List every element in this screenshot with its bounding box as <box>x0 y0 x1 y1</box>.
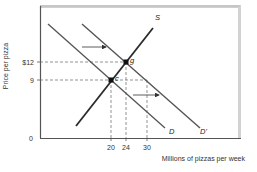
equilibrium-point-g <box>124 60 129 65</box>
demand-curve-D <box>48 24 165 128</box>
x-tick-20: 20 <box>107 144 115 151</box>
supply-demand-chart: g c S D D' $12 9 0 20 24 30 Price per pi… <box>0 0 257 172</box>
equilibrium-point-c <box>109 78 114 83</box>
point-label-c: c <box>115 74 119 83</box>
y-tick-0: 0 <box>29 135 33 142</box>
tick-marks <box>37 62 147 141</box>
point-label-g: g <box>130 56 135 65</box>
plot-frame <box>40 5 241 138</box>
x-axis-label: Millions of pizzas per week <box>162 155 246 163</box>
y-tick-12: $12 <box>22 59 34 66</box>
curve-label-D: D <box>169 127 175 136</box>
curve-label-S: S <box>155 13 160 22</box>
curve-label-D-prime: D' <box>200 127 207 136</box>
x-tick-24: 24 <box>122 144 130 151</box>
x-tick-30: 30 <box>143 144 151 151</box>
guide-lines <box>40 62 147 138</box>
y-axis-label: Price per pizza <box>2 43 10 89</box>
y-tick-9: 9 <box>30 77 34 84</box>
demand-curve-D-prime <box>82 24 200 128</box>
